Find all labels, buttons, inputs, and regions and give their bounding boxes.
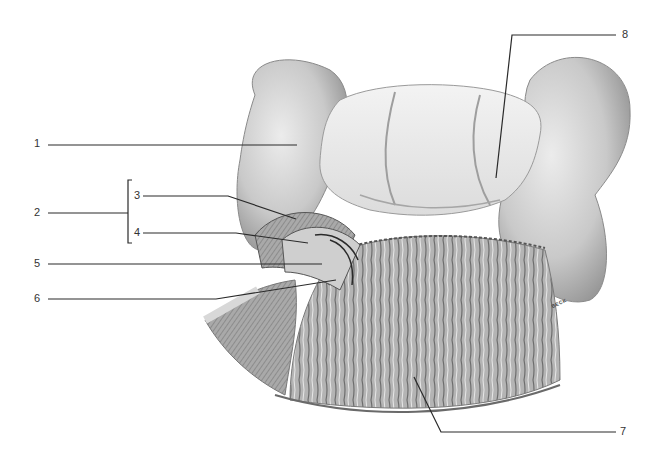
mesentery — [320, 85, 541, 216]
label-2: 2 — [34, 207, 40, 218]
anatomy-figure: 1 2 3 4 5 6 7 8 BECK — [0, 0, 668, 458]
label-1: 1 — [34, 138, 40, 149]
label-5: 5 — [34, 258, 40, 269]
label-6: 6 — [34, 293, 40, 304]
label-4: 4 — [134, 227, 140, 238]
label-3: 3 — [134, 190, 140, 201]
intestine-illustration — [0, 0, 668, 458]
label-8: 8 — [622, 29, 628, 40]
label-7: 7 — [620, 426, 626, 437]
